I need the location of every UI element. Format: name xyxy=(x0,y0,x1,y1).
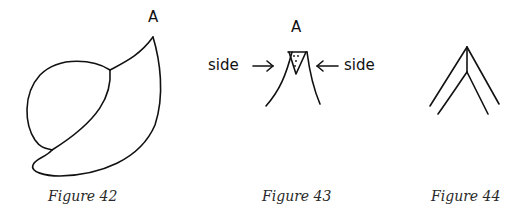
figure-42-drawing xyxy=(27,37,161,176)
figure-43-drawing xyxy=(253,52,338,106)
figure-44-caption: Figure 44 xyxy=(431,188,500,204)
figure-43-side-left: side xyxy=(208,56,239,74)
line-drawings xyxy=(0,0,524,217)
figure-44-drawing xyxy=(430,47,499,114)
figure-43-label-a: A xyxy=(291,18,301,36)
figure-43-caption: Figure 43 xyxy=(262,188,331,204)
figure-43-side-right: side xyxy=(344,56,375,74)
figure-strip: A Figure 42 A side side Figure 43 Figure… xyxy=(0,0,524,217)
figure-42-caption: Figure 42 xyxy=(48,188,117,204)
figure-42-label-a: A xyxy=(148,8,158,26)
